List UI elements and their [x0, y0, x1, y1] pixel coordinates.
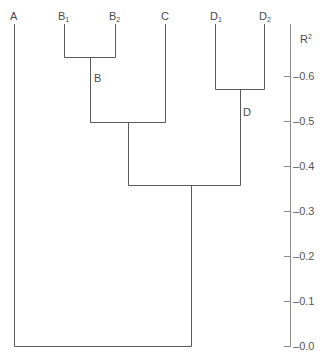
tick-label: –0.2	[293, 250, 314, 262]
tick-label: –0.1	[293, 295, 314, 307]
branch-d1-d2	[216, 24, 265, 90]
tick-label: –0.4	[293, 160, 314, 172]
leaf-label-a: A	[10, 10, 17, 22]
dendrogram-branches	[15, 24, 265, 347]
leaf-label-b2: B2	[109, 10, 120, 26]
branch-b-c	[91, 24, 166, 123]
tick-label: –0.5	[293, 115, 314, 127]
cluster-label-b: B	[94, 72, 101, 84]
leaf-label-b1: B1	[58, 10, 69, 26]
r2-axis	[284, 24, 291, 347]
tick-value: 0.3	[299, 205, 314, 217]
leaf-name: D	[259, 10, 267, 22]
leaf-subscript: 2	[267, 16, 271, 23]
tick-label: –0.3	[293, 205, 314, 217]
leaf-label-d1: D1	[210, 10, 222, 26]
tick-value: 0.2	[299, 250, 314, 262]
tick-value: 0.5	[299, 115, 314, 127]
axis-title-text: R	[300, 33, 308, 45]
tick-label: –0.0	[293, 340, 314, 352]
tick-value: 0.0	[299, 340, 314, 352]
leaf-subscript: 1	[65, 16, 69, 23]
branch-bc-d	[129, 90, 241, 186]
axis-title: R2	[300, 31, 312, 45]
axis-title-superscript: 2	[308, 33, 312, 40]
leaf-name: A	[10, 10, 17, 22]
tick-label: –0.6	[293, 70, 314, 82]
branch-b1-b2	[65, 24, 116, 58]
leaf-subscript: 1	[218, 16, 222, 23]
tick-value: 0.1	[299, 295, 314, 307]
leaf-name: D	[210, 10, 218, 22]
leaf-label-c: C	[161, 10, 169, 22]
dendrogram-canvas	[0, 0, 335, 361]
leaf-label-d2: D2	[259, 10, 271, 26]
tick-value: 0.6	[299, 70, 314, 82]
tick-value: 0.4	[299, 160, 314, 172]
cluster-label-d: D	[243, 106, 251, 118]
leaf-subscript: 2	[116, 16, 120, 23]
leaf-name: C	[161, 10, 169, 22]
